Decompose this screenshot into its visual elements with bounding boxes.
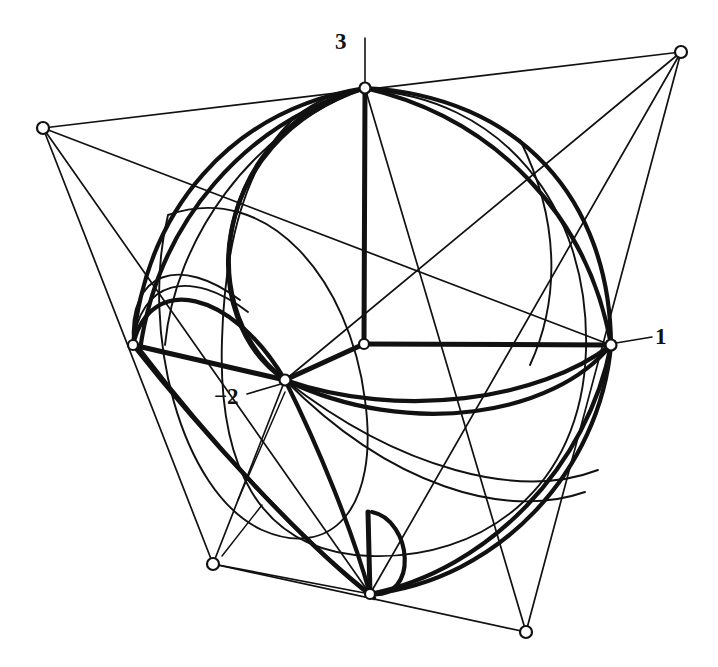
chord-bl-to-bn [213,564,370,594]
chord-tr-to-m2 [285,52,681,380]
leader-lines [247,38,652,394]
thin-arc-top-left-swoop [165,88,365,345]
chord-tl-to-1 [43,128,611,345]
ray-from-m2-down [238,392,285,500]
node-markers [37,46,687,638]
quad-vertex-top-left [37,122,49,134]
left-node [128,340,138,350]
figure-canvas: 3 1 −2 [0,0,718,667]
thin-arc-right-lower [285,380,598,481]
ray-lines [222,392,285,556]
leader-1 [616,337,652,343]
quad-vertex-bottom-left [207,558,219,570]
branch-point-3 [360,83,371,94]
ray-to-bottom-left [222,505,262,556]
thick-arc-m2-to-bn [285,380,370,594]
center-node [359,339,369,349]
quad-vertex-top-right [675,46,687,58]
thick-arc-bn-cusp [370,512,405,594]
quad-vertex-bottom-right [520,626,532,638]
chord-br-to-3 [365,88,526,632]
thick-arc-left-to-bn-2 [140,350,374,598]
thick-arc-m2-to-1 [285,345,611,401]
thin-circle-main [222,90,586,556]
spoke-bottom-stub [368,512,370,594]
bottom-node [365,589,375,599]
branch-label-minus-2: −2 [214,385,239,408]
leader-m2 [247,384,281,394]
thick-arc-3-to-1-outer [365,88,611,345]
branch-point-minus-2 [280,375,291,386]
thick-arc-3-to-1-inner [365,88,611,345]
curve-diagram-svg [0,0,718,667]
spoke-center-to-m2 [285,344,364,380]
branch-label-3: 3 [335,30,347,53]
thick-arc-3-to-left-2 [140,88,365,350]
chord-tr-to-bn [370,52,681,594]
branch-point-1 [606,340,617,351]
branch-label-1: 1 [655,325,667,348]
spoke-center-to-1 [364,344,611,345]
spoke-center-to-3 [364,88,365,344]
